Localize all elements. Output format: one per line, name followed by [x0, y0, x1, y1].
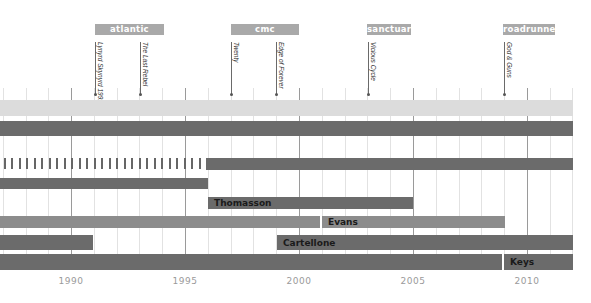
bar-row-6a	[0, 216, 320, 228]
x-tick-1990: 1990	[59, 276, 84, 286]
dash	[64, 158, 66, 169]
album-title: Lynyrd Skynyrd 1991	[97, 42, 104, 103]
timeline-chart: atlantic cmc sanctuary roadrunner Lynyrd…	[0, 0, 591, 303]
album-title: Twenty	[233, 42, 240, 62]
bar-evans: Evans	[322, 216, 505, 228]
dash	[49, 158, 51, 169]
label-cmc: cmc	[231, 24, 299, 35]
album-dot	[367, 93, 370, 96]
x-tick-2010: 2010	[515, 276, 540, 286]
x-tick-2005: 2005	[401, 276, 426, 286]
dash	[116, 158, 118, 169]
dash	[146, 158, 148, 169]
dash	[86, 158, 88, 169]
album-title: The Last Rebel	[142, 42, 149, 86]
album-line	[368, 42, 369, 94]
album-dot	[230, 93, 233, 96]
bar-label-thomasson: Thomasson	[214, 198, 272, 208]
dash	[161, 158, 163, 169]
bar-cartellone: Cartellone	[277, 235, 573, 250]
dash	[169, 158, 171, 169]
bar-row-7a	[0, 235, 93, 250]
dash	[56, 158, 58, 169]
x-tick-1995: 1995	[173, 276, 198, 286]
bar-label-cartellone: Cartellone	[283, 238, 335, 248]
bar-row-1	[0, 100, 573, 116]
dash	[26, 158, 28, 169]
dash	[124, 158, 126, 169]
bar-thomasson: Thomasson	[208, 197, 413, 209]
label-roadrunner: roadrunner	[503, 24, 555, 35]
dash	[34, 158, 36, 169]
x-tick-2000: 2000	[287, 276, 312, 286]
album-dot	[275, 93, 278, 96]
album-line	[504, 42, 505, 94]
dash	[94, 158, 96, 169]
dash	[41, 158, 43, 169]
album-title: God & Guns	[506, 42, 513, 78]
dash	[19, 158, 21, 169]
album-title: Vicious Cycle	[370, 42, 377, 81]
dash	[191, 158, 193, 169]
label-sanctuary: sanctuary	[367, 24, 411, 35]
dash	[11, 158, 13, 169]
dash	[101, 158, 103, 169]
album-dot	[503, 93, 506, 96]
bar-keys: Keys	[504, 254, 573, 270]
dash	[4, 158, 6, 169]
dash	[199, 158, 201, 169]
album-title: Edge of Forever	[278, 42, 285, 89]
dash	[176, 158, 178, 169]
dash	[184, 158, 186, 169]
dash	[109, 158, 111, 169]
album-line	[276, 42, 277, 94]
album-line	[231, 42, 232, 94]
dash	[154, 158, 156, 169]
bar-row-8a	[0, 254, 502, 270]
dash	[79, 158, 81, 169]
dash	[131, 158, 133, 169]
bar-row-4	[0, 178, 208, 189]
label-atlantic: atlantic	[95, 24, 164, 35]
bar-row-2	[0, 121, 573, 136]
album-line	[140, 42, 141, 94]
album-dot	[139, 93, 142, 96]
bar-label-evans: Evans	[328, 217, 358, 227]
bar-row-3-solid	[206, 158, 573, 170]
album-line	[95, 42, 96, 94]
dash	[139, 158, 141, 169]
dash	[71, 158, 73, 169]
bar-label-keys: Keys	[510, 257, 534, 267]
